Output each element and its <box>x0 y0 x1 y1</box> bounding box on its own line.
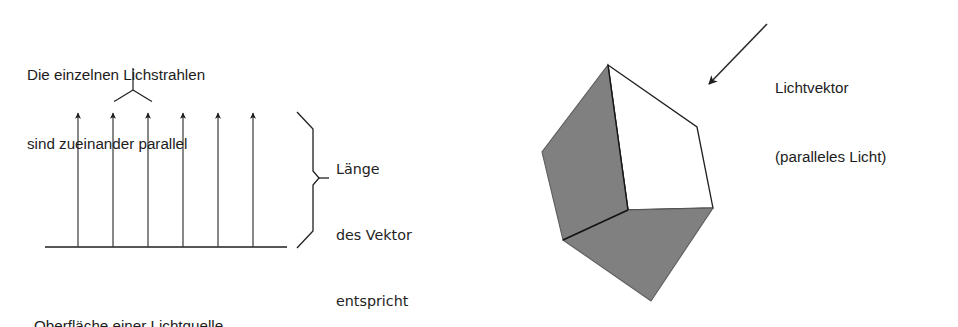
light-vector-caption-line-1: Lichtvektor <box>775 76 886 99</box>
light-vector-caption: Lichtvektor (paralleles Licht) <box>775 30 886 214</box>
vector-length-brace <box>297 112 329 248</box>
light-vector-arrow <box>709 24 767 84</box>
figure-root: Die einzelnen Lichstrahlen sind zueinand… <box>0 0 958 327</box>
parallel-rays-caption-line-1: Die einzelnen Lichstrahlen <box>27 63 205 86</box>
vector-length-caption-line-2: des Vektor <box>336 224 442 246</box>
light-source-surface-caption-line-1: Oberfläche einer Lichtquelle, <box>34 314 231 327</box>
vector-length-caption-line-1: Länge <box>336 158 442 180</box>
parallel-rays-caption: Die einzelnen Lichstrahlen sind zueinand… <box>27 17 205 201</box>
light-source-surface-caption: Oberfläche einer Lichtquelle, die parale… <box>34 268 231 327</box>
vector-length-caption: Länge des Vektor entspricht der Intensit… <box>336 114 442 327</box>
light-vector-caption-line-2: (paralleles Licht) <box>775 145 886 168</box>
shaded-cube-diagram <box>542 24 767 301</box>
parallel-rays-caption-line-2: sind zueinander parallel <box>27 132 205 155</box>
vector-length-caption-line-3: entspricht <box>336 290 442 312</box>
